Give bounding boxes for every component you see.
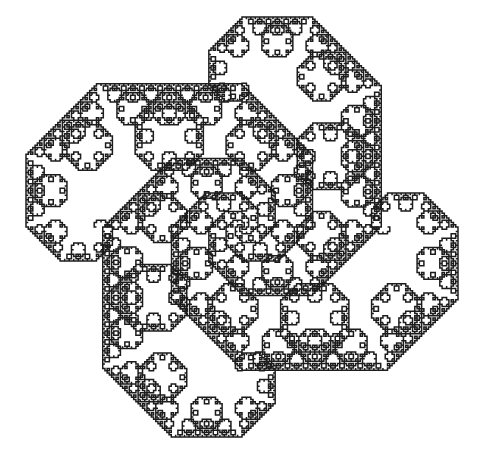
fractal-svg-canvas — [0, 0, 481, 468]
figure-background — [0, 0, 481, 468]
fractal-figure-canvas — [0, 0, 481, 468]
